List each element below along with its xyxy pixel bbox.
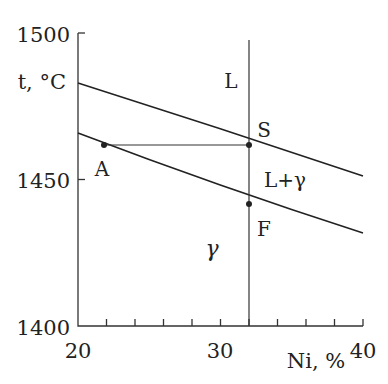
liquidus-curve [78, 83, 363, 176]
x-tick-label-20: 20 [65, 339, 92, 363]
x-tick-label-40: 40 [350, 339, 377, 363]
phase-diagram: 1500 1450 1400 20 30 40 t, °C Ni, % L L+… [0, 0, 388, 384]
axes [78, 33, 363, 326]
region-label-liquid: L [224, 69, 237, 93]
x-ticks [107, 319, 364, 326]
y-axis-label: t, °C [18, 70, 66, 94]
region-label-solid: γ [205, 236, 219, 261]
point-s-marker [246, 142, 252, 148]
point-f-marker [246, 201, 252, 207]
x-tick-label-30: 30 [207, 339, 234, 363]
region-label-two-phase: L+γ [264, 168, 306, 192]
point-f-label: F [257, 217, 271, 241]
y-tick-label-1450: 1450 [17, 169, 70, 193]
x-axis-label: Ni, % [287, 349, 345, 373]
y-tick-label-1400: 1400 [17, 316, 70, 340]
point-a-label: A [94, 157, 110, 181]
y-tick-label-1500: 1500 [17, 23, 70, 47]
point-s-label: S [257, 118, 271, 142]
solidus-curve [78, 133, 363, 233]
axis-lines [78, 33, 363, 326]
point-a-marker [101, 142, 107, 148]
